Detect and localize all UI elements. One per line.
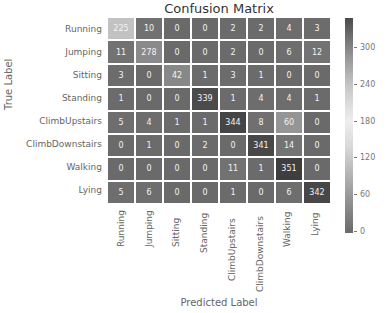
colorbar-tick: 180 [354,117,375,126]
matrix-cell: 0 [304,65,330,86]
matrix-cell: 2 [220,18,246,39]
colorbar-tick: 60 [354,190,370,199]
matrix-cell: 0 [164,182,190,203]
matrix-cell: 0 [192,182,218,203]
row-label: Standing [62,93,102,103]
matrix-cell: 0 [192,158,218,179]
matrix-cell: 0 [304,158,330,179]
matrix-cell: 341 [248,135,274,156]
colorbar [345,18,353,233]
matrix-cell: 351 [276,158,302,179]
colorbar-tick: 300 [354,43,375,52]
row-label: Running [65,24,102,34]
matrix-cell: 1 [192,65,218,86]
matrix-cell: 6 [276,41,302,62]
matrix-cell: 3 [220,65,246,86]
matrix-cell: 1 [220,88,246,109]
matrix-cell: 1 [108,88,134,109]
matrix-cell: 0 [304,112,330,133]
matrix-cell: 2 [220,41,246,62]
matrix-cell: 2 [248,18,274,39]
matrix-cell: 1 [304,88,330,109]
row-label: Walking [67,162,102,172]
y-axis-title: True Label [3,59,14,110]
matrix-cell: 0 [304,135,330,156]
matrix-cell: 0 [248,41,274,62]
matrix-cell: 278 [136,41,162,62]
matrix-cell: 4 [276,88,302,109]
matrix-cell: 0 [108,158,134,179]
x-axis-title: Predicted Label [108,297,330,308]
matrix-cell: 0 [220,135,246,156]
matrix-cell: 0 [192,41,218,62]
row-label: ClimbUpstairs [39,116,102,126]
matrix-cell: 11 [220,158,246,179]
matrix-cell: 4 [276,18,302,39]
colorbar-tick: 120 [354,153,375,162]
column-label: ClimbDownstairs [255,216,265,292]
matrix-cell: 0 [164,88,190,109]
matrix-cell: 5 [108,112,134,133]
matrix-cell: 1 [136,135,162,156]
matrix-cell: 2 [192,135,218,156]
confusion-matrix-grid: 2251000224311278002061230421310010033914… [108,18,330,203]
matrix-cell: 1 [248,65,274,86]
matrix-cell: 60 [276,112,302,133]
matrix-cell: 0 [164,18,190,39]
matrix-cell: 5 [108,182,134,203]
matrix-cell: 11 [108,41,134,62]
column-label: ClimbUpstairs [227,218,237,281]
matrix-cell: 0 [164,41,190,62]
matrix-cell: 12 [304,41,330,62]
matrix-cell: 42 [164,65,190,86]
colorbar-tick: 0 [354,227,365,236]
column-label: Walking [282,212,292,247]
matrix-cell: 8 [248,112,274,133]
matrix-cell: 344 [220,112,246,133]
row-label: Jumping [65,47,102,57]
matrix-cell: 339 [192,88,218,109]
chart-title: Confusion Matrix [108,1,330,16]
matrix-cell: 0 [164,158,190,179]
matrix-cell: 3 [304,18,330,39]
matrix-cell: 6 [276,182,302,203]
matrix-cell: 1 [220,182,246,203]
matrix-cell: 6 [136,182,162,203]
matrix-cell: 10 [136,18,162,39]
matrix-cell: 225 [108,18,134,39]
matrix-cell: 0 [136,158,162,179]
column-label: Jumping [144,210,154,247]
matrix-cell: 0 [192,18,218,39]
column-label: Standing [199,213,209,253]
row-label: ClimbDownstairs [26,139,102,149]
row-label: Sitting [73,70,102,80]
matrix-cell: 342 [304,182,330,203]
column-label: Sitting [171,218,181,247]
matrix-cell: 4 [248,88,274,109]
matrix-cell: 0 [248,182,274,203]
matrix-cell: 4 [136,112,162,133]
column-label: Lying [310,213,320,236]
matrix-cell: 1 [248,158,274,179]
column-label: Running [116,210,126,247]
colorbar-tick: 240 [354,80,375,89]
matrix-cell: 0 [136,88,162,109]
matrix-cell: 1 [192,112,218,133]
row-label: Lying [79,185,102,195]
matrix-cell: 0 [276,65,302,86]
matrix-cell: 0 [108,135,134,156]
matrix-cell: 0 [164,135,190,156]
matrix-cell: 3 [108,65,134,86]
matrix-cell: 0 [136,65,162,86]
matrix-cell: 14 [276,135,302,156]
matrix-cell: 1 [164,112,190,133]
